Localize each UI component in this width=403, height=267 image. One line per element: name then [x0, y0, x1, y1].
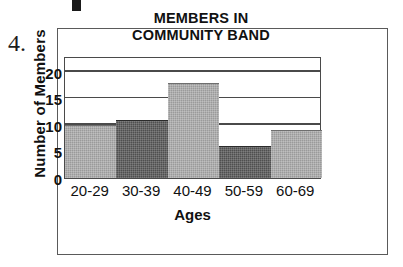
x-tick-label: 30-39: [115, 182, 166, 199]
x-tick-label: 60-69: [270, 182, 321, 199]
bar-30-39: [116, 120, 167, 178]
y-tick-label: 20: [45, 64, 62, 81]
plot-area: [64, 57, 321, 179]
y-tick-label: 0: [54, 171, 62, 188]
x-tick-label: 50-59: [218, 182, 269, 199]
y-tick-label: 15: [45, 91, 62, 108]
x-axis-title: Ages: [64, 206, 321, 223]
x-axis-tick-labels: 20-2930-3940-4950-5960-69: [64, 182, 321, 204]
x-tick-label: 20-29: [64, 182, 115, 199]
bar-40-49: [168, 83, 219, 178]
y-tick-label: 5: [54, 144, 62, 161]
chart-title: MEMBERS IN COMMUNITY BAND: [78, 10, 324, 43]
bar-50-59: [219, 146, 270, 178]
x-tick-label: 40-49: [167, 182, 218, 199]
bar-60-69: [271, 130, 322, 178]
chart-title-line-1: MEMBERS IN: [78, 10, 324, 27]
bar-20-29: [65, 125, 116, 178]
y-tick-label: 10: [45, 117, 62, 134]
bars-layer: [65, 58, 320, 178]
y-axis-tick-labels: 05101520: [32, 57, 62, 179]
chart-title-line-2: COMMUNITY BAND: [78, 27, 324, 44]
exercise-number: 4.: [8, 30, 26, 57]
